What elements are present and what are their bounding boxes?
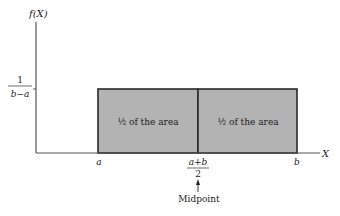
x-tick-b: b [294, 157, 300, 167]
y-tick-denominator: b−a [11, 89, 30, 99]
midpoint-arrow-head [196, 179, 200, 185]
x-tick-mid-denominator: 2 [195, 169, 201, 179]
x-tick-a: a [96, 157, 101, 167]
x-tick-mid-numerator: a+b [189, 157, 208, 167]
y-tick-numerator: 1 [17, 75, 23, 85]
y-axis-label: f(X) [28, 8, 48, 19]
x-axis-label: X [321, 148, 330, 159]
left-region-label: ½ of the area [117, 117, 179, 127]
right-region-label: ½ of the area [217, 117, 279, 127]
midpoint-annotation: Midpoint [178, 194, 220, 204]
uniform-distribution-diagram: f(X) 1 b−a ½ of the area ½ of the area X… [0, 0, 340, 216]
